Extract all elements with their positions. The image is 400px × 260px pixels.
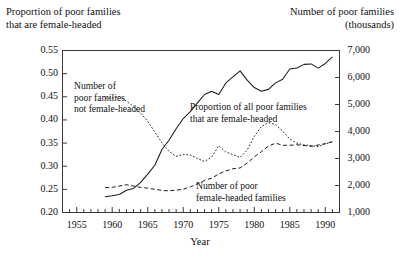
- plot-frame: [63, 51, 340, 213]
- right-axis-tick-label: 3,000: [348, 152, 371, 163]
- x-axis-tick-label: 1965: [128, 219, 168, 230]
- left-axis-tick-label: 0.30: [10, 160, 58, 171]
- x-axis-tick-label: 1970: [163, 219, 203, 230]
- x-axis-tick-label: 1990: [305, 219, 345, 230]
- left-axis-tick-label: 0.55: [10, 44, 58, 55]
- x-axis-tick-label: 1985: [270, 219, 310, 230]
- left-axis-tick-label: 0.25: [10, 183, 58, 194]
- right-axis-tick-label: 7,000: [348, 44, 371, 55]
- x-axis-tick-label: 1975: [199, 219, 239, 230]
- right-axis-tick-label: 4,000: [348, 125, 371, 136]
- series-line-1: [105, 96, 332, 161]
- right-axis-tick-label: 5,000: [348, 98, 371, 109]
- left-axis-tick-label: 0.40: [10, 113, 58, 124]
- right-axis-tick-label: 1,000: [348, 206, 371, 217]
- left-axis-tick-label: 0.45: [10, 90, 58, 101]
- right-axis-tick-label: 2,000: [348, 179, 371, 190]
- right-axis-tick-label: 6,000: [348, 71, 371, 82]
- left-axis-tick-label: 0.35: [10, 137, 58, 148]
- chart-figure: Proportion of poor families that are fem…: [0, 0, 400, 260]
- left-axis-tick-label: 0.20: [10, 206, 58, 217]
- x-axis-tick-label: 1960: [92, 219, 132, 230]
- series-line-0: [105, 57, 332, 197]
- x-axis-tick-label: 1980: [234, 219, 274, 230]
- x-axis-tick-label: 1955: [57, 219, 97, 230]
- left-axis-tick-label: 0.50: [10, 67, 58, 78]
